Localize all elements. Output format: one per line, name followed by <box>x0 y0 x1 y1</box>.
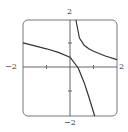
y-max-label: 2 <box>67 8 72 16</box>
x-min-label: −2 <box>5 63 17 71</box>
y-min-label: −2 <box>64 119 76 127</box>
x-max-label: 2 <box>119 63 124 71</box>
curve-branch-left <box>23 43 95 116</box>
curve-branch-right <box>76 20 117 60</box>
graph <box>0 0 128 132</box>
